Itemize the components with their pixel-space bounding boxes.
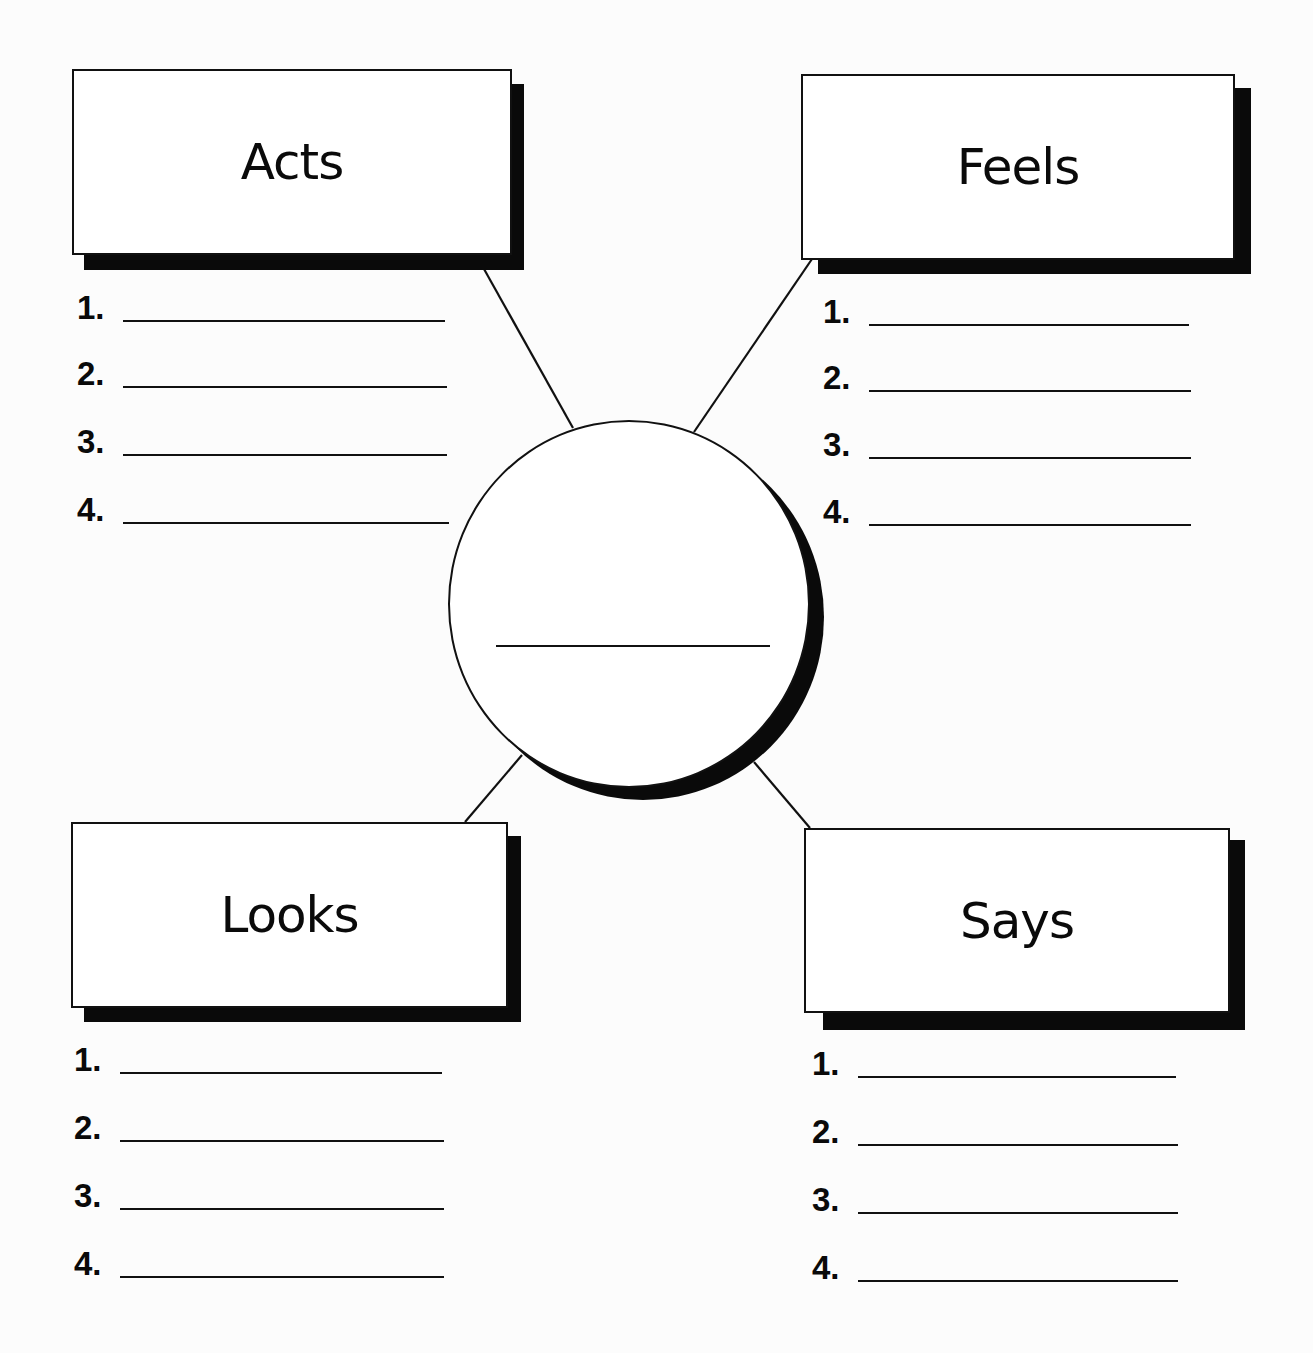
acts-item-2[interactable]: 2.	[77, 350, 447, 390]
answer-blank[interactable]	[120, 1208, 444, 1210]
item-number: 1.	[77, 291, 123, 324]
feels-item-2[interactable]: 2.	[823, 354, 1191, 394]
says-item-4[interactable]: 4.	[812, 1244, 1178, 1284]
acts-item-1[interactable]: 1.	[77, 284, 445, 324]
feels-list: 1. 2. 3. 4.	[823, 284, 1203, 544]
item-number: 1.	[74, 1043, 120, 1076]
feels-title: Feels	[957, 142, 1080, 192]
answer-blank[interactable]	[120, 1276, 444, 1278]
item-number: 3.	[812, 1183, 858, 1216]
acts-box: Acts	[72, 69, 512, 255]
item-number: 4.	[77, 493, 123, 526]
item-number: 3.	[823, 428, 869, 461]
acts-item-3[interactable]: 3.	[77, 418, 447, 458]
acts-item-4[interactable]: 4.	[77, 486, 449, 526]
answer-blank[interactable]	[858, 1144, 1178, 1146]
answer-blank[interactable]	[858, 1280, 1178, 1282]
answer-blank[interactable]	[869, 324, 1189, 326]
item-number: 1.	[823, 295, 869, 328]
item-number: 2.	[812, 1115, 858, 1148]
item-number: 2.	[77, 357, 123, 390]
answer-blank[interactable]	[869, 457, 1191, 459]
looks-list: 1. 2. 3. 4.	[74, 1036, 454, 1296]
feels-item-4[interactable]: 4.	[823, 488, 1191, 528]
feels-box: Feels	[801, 74, 1235, 260]
item-number: 2.	[823, 361, 869, 394]
says-list: 1. 2. 3. 4.	[812, 1040, 1192, 1300]
answer-blank[interactable]	[123, 522, 449, 524]
says-item-1[interactable]: 1.	[812, 1040, 1176, 1080]
center-circle	[448, 420, 810, 788]
answer-blank[interactable]	[858, 1076, 1176, 1078]
looks-item-3[interactable]: 3.	[74, 1172, 444, 1212]
answer-blank[interactable]	[869, 524, 1191, 526]
answer-blank[interactable]	[123, 320, 445, 322]
answer-blank[interactable]	[123, 386, 447, 388]
says-item-2[interactable]: 2.	[812, 1108, 1178, 1148]
acts-list: 1. 2. 3. 4.	[77, 280, 457, 540]
item-number: 4.	[812, 1251, 858, 1284]
item-number: 1.	[812, 1047, 858, 1080]
looks-item-4[interactable]: 4.	[74, 1240, 444, 1280]
feels-item-1[interactable]: 1.	[823, 288, 1189, 328]
feels-item-3[interactable]: 3.	[823, 421, 1191, 461]
says-box: Says	[804, 828, 1230, 1013]
item-number: 4.	[74, 1247, 120, 1280]
item-number: 3.	[77, 425, 123, 458]
answer-blank[interactable]	[123, 454, 447, 456]
acts-title: Acts	[241, 137, 343, 187]
looks-title: Looks	[220, 890, 358, 940]
looks-item-2[interactable]: 2.	[74, 1104, 444, 1144]
item-number: 2.	[74, 1111, 120, 1144]
looks-box: Looks	[71, 822, 508, 1008]
says-item-3[interactable]: 3.	[812, 1176, 1178, 1216]
answer-blank[interactable]	[120, 1072, 442, 1074]
answer-blank[interactable]	[120, 1140, 444, 1142]
character-name-blank[interactable]	[496, 645, 770, 647]
answer-blank[interactable]	[858, 1212, 1178, 1214]
looks-item-1[interactable]: 1.	[74, 1036, 442, 1076]
item-number: 4.	[823, 495, 869, 528]
item-number: 3.	[74, 1179, 120, 1212]
answer-blank[interactable]	[869, 390, 1191, 392]
says-title: Says	[960, 896, 1074, 946]
